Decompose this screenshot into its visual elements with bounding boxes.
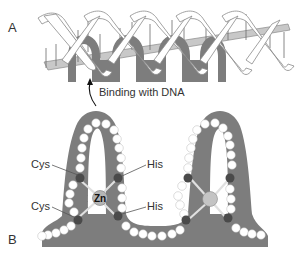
- gap-right-hollow: [262, 200, 305, 253]
- his-top-residue-2: [226, 174, 235, 183]
- zinc-label: Zn: [94, 193, 106, 204]
- panel-b: Zn Cys Cys His His B: [0, 111, 305, 253]
- cys-top-residue-2: [184, 174, 193, 183]
- cys-bottom-label: Cys: [31, 200, 50, 212]
- cys-bottom-residue: [74, 216, 83, 225]
- binding-arrow: [87, 78, 96, 106]
- zinc-finger-diagram: A Binding with DNA: [0, 0, 305, 253]
- panel-a: A: [8, 11, 294, 82]
- his-bottom-residue-2: [224, 214, 233, 223]
- his-top-label: His: [147, 158, 163, 170]
- his-bottom-label: His: [147, 200, 163, 212]
- zinc-ion-2: [203, 192, 218, 207]
- his-bottom-residue: [114, 212, 123, 221]
- panel-a-label: A: [8, 20, 17, 35]
- panel-b-label: B: [8, 232, 17, 247]
- cys-top-label: Cys: [31, 158, 50, 170]
- cys-bottom-residue-2: [182, 216, 191, 225]
- binding-with-dna-label: Binding with DNA: [99, 86, 185, 98]
- his-top-residue: [114, 174, 123, 183]
